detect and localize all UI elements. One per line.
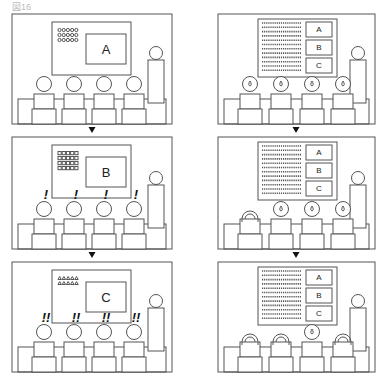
person-desk xyxy=(122,234,146,249)
audience-member xyxy=(92,77,116,125)
person-desk xyxy=(62,234,86,249)
person-desk xyxy=(331,357,355,372)
presenter xyxy=(148,47,164,104)
audience-member xyxy=(238,334,262,372)
person-desk xyxy=(62,357,86,372)
person-torso xyxy=(64,94,84,109)
exclamation-icon: ! xyxy=(104,187,109,202)
asleep-head-icon xyxy=(335,334,351,342)
person-desk xyxy=(122,109,146,124)
presenter-body xyxy=(148,185,164,228)
person-head xyxy=(336,77,351,92)
person-head xyxy=(37,77,52,92)
person-torso xyxy=(240,219,260,234)
person-desk xyxy=(238,234,262,249)
person-torso xyxy=(302,219,322,234)
asleep-head-icon xyxy=(242,334,258,342)
audience-member xyxy=(269,202,293,250)
down-arrow-icon xyxy=(293,127,300,133)
presenter-head xyxy=(352,47,365,60)
panel-R3: ABC xyxy=(218,262,375,372)
slide-section-label: B xyxy=(316,291,321,300)
asleep-head-icon xyxy=(242,211,258,219)
exclamation-icon: !! xyxy=(72,310,81,325)
person-desk xyxy=(92,234,116,249)
presenter-head xyxy=(150,47,163,60)
audience-member xyxy=(300,202,324,250)
person-torso xyxy=(333,94,353,109)
audience-member xyxy=(122,77,146,125)
person-head xyxy=(274,77,289,92)
asleep-head-icon xyxy=(273,334,289,342)
down-arrow-icon xyxy=(293,252,300,258)
presenter-body xyxy=(148,308,164,351)
person-desk xyxy=(32,357,56,372)
person-head xyxy=(243,77,258,92)
person-head xyxy=(37,325,52,340)
slide-section-label: B xyxy=(316,166,321,175)
person-torso xyxy=(64,219,84,234)
audience-member xyxy=(300,77,324,125)
audience-member xyxy=(62,77,86,125)
person-desk xyxy=(122,357,146,372)
slide-section-label: A xyxy=(316,25,322,34)
slide-section-label: B xyxy=(316,43,321,52)
person-torso xyxy=(34,219,54,234)
person-torso xyxy=(34,342,54,357)
slide-letter: C xyxy=(101,290,110,305)
person-desk xyxy=(331,109,355,124)
person-head xyxy=(97,325,112,340)
person-head xyxy=(305,325,320,340)
presenter-head xyxy=(352,295,365,308)
person-head xyxy=(336,202,351,217)
audience-member xyxy=(238,211,262,249)
person-desk xyxy=(238,109,262,124)
person-desk xyxy=(300,234,324,249)
person-head xyxy=(97,202,112,217)
exclamation-icon: ! xyxy=(74,187,79,202)
slide-section-label: A xyxy=(316,273,322,282)
down-arrow-icon xyxy=(89,127,96,133)
exclamation-icon: ! xyxy=(44,187,49,202)
asleep-head-inner xyxy=(245,214,255,219)
person-torso xyxy=(240,94,260,109)
person-torso xyxy=(94,94,114,109)
asleep-head-inner xyxy=(245,337,255,342)
person-head xyxy=(127,202,142,217)
panel-L2: B!!!! xyxy=(12,137,172,249)
person-desk xyxy=(269,357,293,372)
presenter-head xyxy=(352,172,365,185)
audience-member xyxy=(32,77,56,125)
person-torso xyxy=(302,94,322,109)
audience-member xyxy=(269,334,293,372)
down-arrow-icon xyxy=(89,252,96,258)
person-desk xyxy=(300,357,324,372)
person-torso xyxy=(64,342,84,357)
person-head xyxy=(127,325,142,340)
slide-section-label: C xyxy=(316,61,322,70)
person-head xyxy=(127,77,142,92)
exclamation-icon: !! xyxy=(132,310,141,325)
person-torso xyxy=(302,342,322,357)
presenter xyxy=(148,295,164,352)
person-head xyxy=(97,77,112,92)
audience-member xyxy=(238,77,262,125)
exclamation-icon: !! xyxy=(102,310,111,325)
exclamation-icon: !! xyxy=(42,310,51,325)
exclamation-icon: ! xyxy=(134,187,139,202)
person-torso xyxy=(94,219,114,234)
right-column-sequence: ABCABCABC xyxy=(218,14,375,372)
person-torso xyxy=(34,94,54,109)
asleep-head-inner xyxy=(338,337,348,342)
person-head xyxy=(305,202,320,217)
person-desk xyxy=(269,109,293,124)
person-desk xyxy=(92,109,116,124)
person-desk xyxy=(32,234,56,249)
panel-L1: A xyxy=(12,14,172,124)
person-torso xyxy=(124,94,144,109)
person-torso xyxy=(240,342,260,357)
asleep-head-inner xyxy=(276,337,286,342)
panel-R1: ABC xyxy=(218,14,375,124)
person-torso xyxy=(333,342,353,357)
person-head xyxy=(274,202,289,217)
